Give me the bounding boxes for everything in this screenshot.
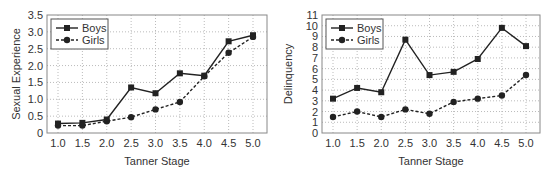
legend: BoysGirls	[326, 19, 383, 49]
square-marker	[475, 56, 481, 62]
y-tick-label: 0	[37, 127, 43, 139]
circle-marker	[523, 72, 529, 78]
circle-marker	[55, 122, 61, 128]
circle-marker	[378, 114, 384, 120]
circle-marker	[330, 114, 336, 120]
x-axis-label: Tanner Stage	[124, 155, 189, 167]
square-marker	[153, 90, 159, 96]
x-axis-ticks: 1.01.52.02.53.03.54.04.55.0	[50, 137, 260, 149]
legend-label: Girls	[357, 34, 380, 46]
x-tick-label: 1.0	[325, 137, 340, 149]
y-tick-label: 2.0	[28, 60, 43, 72]
x-tick-label: 4.0	[197, 137, 212, 149]
y-axis-ticks: 01234567891011	[306, 9, 318, 139]
y-axis-label: Sexual Experience	[10, 28, 22, 120]
circle-marker	[128, 114, 134, 120]
square-marker	[499, 25, 505, 31]
x-tick-label: 4.0	[470, 137, 485, 149]
y-tick-label: 9	[312, 30, 318, 42]
square-marker	[226, 38, 232, 44]
x-tick-label: 5.0	[245, 137, 260, 149]
square-marker	[427, 72, 433, 78]
y-tick-label: 1.5	[28, 76, 43, 88]
x-tick-label: 5.0	[518, 137, 533, 149]
y-tick-label: 1.0	[28, 93, 43, 105]
circle-marker	[152, 106, 158, 112]
y-tick-label: 2	[312, 106, 318, 118]
sexual-experience-chart: 00.51.01.52.02.53.03.51.01.52.02.53.03.5…	[0, 0, 280, 170]
x-tick-label: 1.5	[349, 137, 364, 149]
x-tick-label: 4.5	[494, 137, 509, 149]
x-tick-label: 2.5	[398, 137, 413, 149]
x-axis-ticks: 1.01.52.02.53.03.54.04.55.0	[325, 137, 533, 149]
y-axis-ticks: 00.51.01.52.02.53.03.5	[28, 9, 43, 139]
square-marker	[128, 84, 134, 90]
legend-circle-icon	[339, 37, 345, 43]
square-marker	[451, 69, 457, 75]
y-tick-label: 2.5	[28, 43, 43, 55]
square-marker	[402, 37, 408, 43]
circle-marker	[104, 118, 110, 124]
legend-square-icon	[64, 25, 70, 31]
x-tick-label: 3.0	[422, 137, 437, 149]
circle-marker	[79, 122, 85, 128]
circle-marker	[402, 106, 408, 112]
circle-marker	[354, 108, 360, 114]
square-marker	[354, 85, 360, 91]
circle-marker	[475, 95, 481, 101]
y-tick-label: 8	[312, 41, 318, 53]
delinquency-plot: 012345678910111.01.52.02.53.03.54.04.55.…	[280, 0, 556, 170]
circle-marker	[450, 99, 456, 105]
sexual-experience-plot: 00.51.01.52.02.53.03.51.01.52.02.53.03.5…	[0, 0, 280, 170]
y-tick-label: 3.5	[28, 9, 43, 21]
y-tick-label: 11	[307, 9, 318, 21]
delinquency-chart: 012345678910111.01.52.02.53.03.54.04.55.…	[280, 0, 556, 170]
y-axis-label: Delinquency	[282, 43, 294, 104]
circle-marker	[225, 50, 231, 56]
square-marker	[330, 96, 336, 102]
circle-marker	[499, 92, 505, 98]
y-tick-label: 0	[312, 127, 318, 139]
circle-marker	[177, 99, 183, 105]
x-tick-label: 3.0	[148, 137, 163, 149]
y-tick-label: 3.0	[28, 26, 43, 38]
x-tick-label: 1.0	[50, 137, 65, 149]
legend-circle-icon	[64, 37, 70, 43]
y-tick-label: 10	[306, 20, 318, 32]
x-tick-label: 1.5	[75, 137, 90, 149]
legend-square-icon	[339, 25, 345, 31]
x-tick-label: 2.0	[99, 137, 114, 149]
x-tick-label: 2.0	[374, 137, 389, 149]
square-marker	[177, 70, 183, 76]
y-tick-label: 6	[312, 63, 318, 75]
x-axis-label: Tanner Stage	[398, 155, 463, 167]
legend-label: Boys	[82, 22, 107, 34]
legend-label: Girls	[82, 34, 105, 46]
y-tick-label: 5	[312, 73, 318, 85]
circle-marker	[201, 73, 207, 79]
x-tick-label: 4.5	[221, 137, 236, 149]
y-tick-label: 1	[312, 116, 318, 128]
x-tick-label: 3.5	[446, 137, 461, 149]
x-tick-label: 2.5	[123, 137, 138, 149]
y-tick-label: 0.5	[28, 110, 43, 122]
y-tick-label: 4	[312, 84, 318, 96]
legend: BoysGirls	[51, 19, 108, 49]
y-tick-label: 3	[312, 95, 318, 107]
legend-label: Boys	[357, 22, 382, 34]
square-marker	[378, 89, 384, 95]
y-tick-label: 7	[312, 52, 318, 64]
x-tick-label: 3.5	[172, 137, 187, 149]
circle-marker	[426, 110, 432, 116]
square-marker	[523, 43, 529, 49]
circle-marker	[250, 34, 256, 40]
